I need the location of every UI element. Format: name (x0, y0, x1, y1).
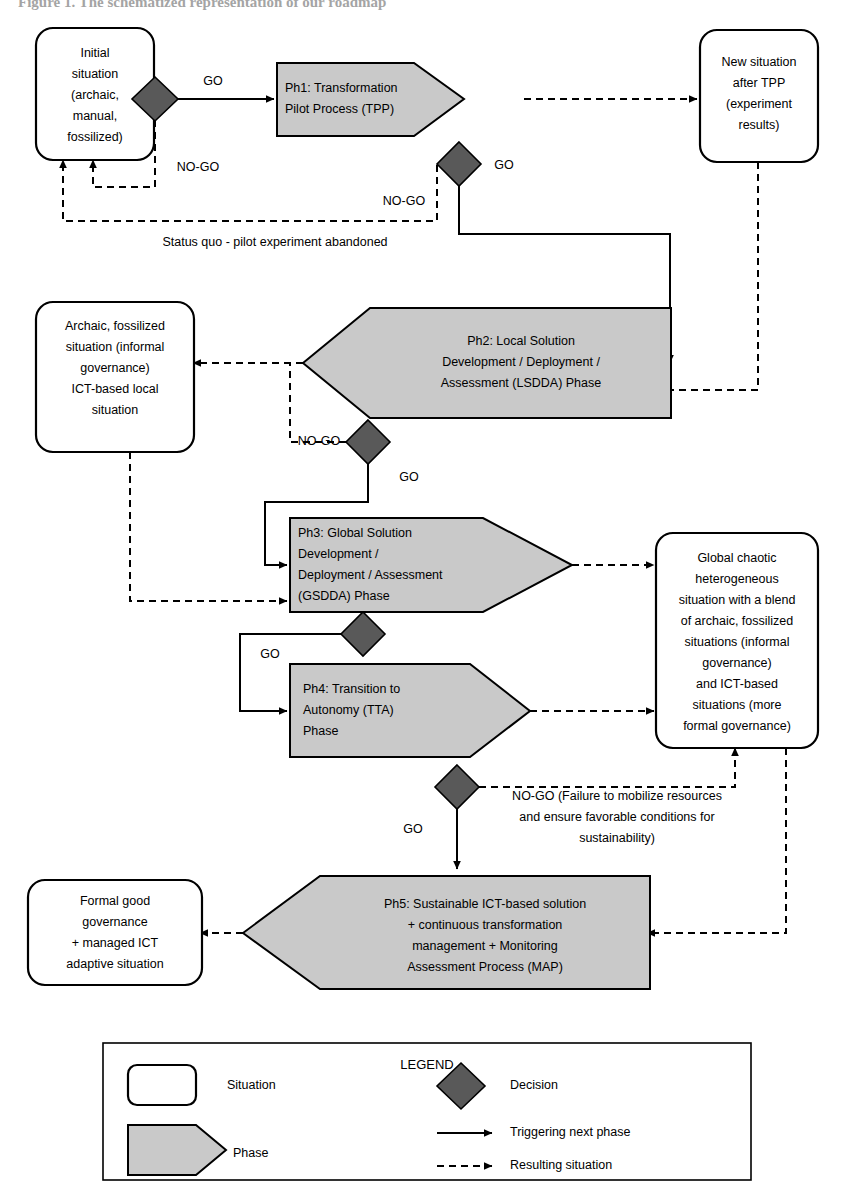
archaic-local-line-1: situation (informal (66, 340, 165, 354)
label-nogo-5-line-0: NO-GO (Failure to mobilize resources (512, 789, 722, 803)
legend-decision-label: Decision (510, 1078, 558, 1092)
ph2-line-2: Assessment (LSDDA) Phase (441, 376, 602, 390)
global-chaotic-line-2: situation with a blend (679, 593, 796, 607)
ph3-line-3: (GSDDA) Phase (298, 589, 390, 603)
node-ph3[interactable]: Ph3: Global Solution Development / Deplo… (290, 518, 572, 612)
new-situation-line-2: (experiment (726, 97, 793, 111)
initial-situation-line-0: Initial (80, 46, 109, 60)
global-chaotic-line-8: formal governance) (683, 719, 791, 733)
formal-line-1: governance (82, 915, 147, 929)
node-formal-good-governance[interactable]: Formal good governance + managed ICT ada… (28, 880, 202, 985)
global-chaotic-line-6: and ICT-based (696, 677, 778, 691)
new-situation-shape (700, 30, 818, 162)
initial-situation-line-1: situation (72, 67, 119, 81)
formal-line-0: Formal good (80, 894, 150, 908)
global-chaotic-line-5: governance) (702, 656, 772, 670)
label-go-1: GO (203, 74, 223, 88)
ph1-line-0: Ph1: Transformation (285, 81, 398, 95)
label-go-4: GO (260, 647, 280, 661)
ph1-shape (277, 63, 464, 136)
edge-nogo5 (479, 748, 735, 787)
legend: LEGEND Situation Phase Decision Triggeri… (103, 1043, 751, 1180)
global-chaotic-line-4: situations (informal (685, 635, 790, 649)
label-go-2: GO (494, 158, 514, 172)
ph5-line-3: Assessment Process (MAP) (407, 960, 563, 974)
edge-global-ph5 (647, 748, 786, 933)
global-chaotic-line-1: heterogeneous (695, 572, 778, 586)
node-archaic-local[interactable]: Archaic, fossilized situation (informal … (36, 302, 194, 452)
initial-situation-line-3: manual, (73, 109, 117, 123)
node-ph1[interactable]: Ph1: Transformation Pilot Process (TPP) (277, 63, 464, 136)
ph4-line-0: Ph4: Transition to (303, 682, 400, 696)
legend-phase-label: Phase (233, 1146, 268, 1160)
label-nogo-1: NO-GO (177, 160, 220, 174)
decision-d3-shape (346, 420, 390, 464)
formal-line-3: adaptive situation (66, 957, 163, 971)
ph2-line-1: Development / Deployment / (442, 355, 600, 369)
ph3-line-1: Development / (298, 547, 379, 561)
label-nogo-2: NO-GO (383, 194, 426, 208)
legend-situation-swatch (128, 1065, 196, 1105)
ph1-line-1: Pilot Process (TPP) (285, 102, 394, 116)
legend-result-label: Resulting situation (510, 1158, 612, 1172)
new-situation-line-0: New situation (721, 55, 796, 69)
node-ph5[interactable]: Ph5: Sustainable ICT-based solution + co… (243, 876, 650, 989)
ph2-line-0: Ph2: Local Solution (467, 334, 575, 348)
global-chaotic-line-7: situations (more (693, 698, 782, 712)
node-decision-d3[interactable] (346, 420, 390, 464)
archaic-local-line-3: ICT-based local (72, 382, 159, 396)
label-status-quo: Status quo - pilot experiment abandoned (162, 235, 387, 249)
node-decision-d4[interactable] (341, 612, 385, 656)
ph3-line-0: Ph3: Global Solution (298, 526, 412, 540)
decision-d5-shape (435, 765, 479, 809)
label-nogo-5-line-2: sustainability) (579, 831, 655, 845)
node-ph4[interactable]: Ph4: Transition to Autonomy (TTA) Phase (290, 664, 530, 757)
label-go-3: GO (399, 470, 419, 484)
label-nogo-3: NO-GO (298, 434, 341, 448)
ph5-line-1: + continuous transformation (408, 918, 563, 932)
archaic-local-line-4: situation (92, 403, 139, 417)
node-new-situation-tpp[interactable]: New situation after TPP (experiment resu… (700, 30, 818, 162)
legend-situation-label: Situation (227, 1078, 276, 1092)
archaic-local-line-2: governance) (80, 361, 150, 375)
new-situation-line-3: results) (739, 118, 780, 132)
ph4-line-1: Autonomy (TTA) (303, 703, 394, 717)
ph4-line-2: Phase (303, 724, 338, 738)
roadmap-flowchart: Initial situation (archaic, manual, foss… (0, 0, 856, 1201)
node-decision-d2[interactable] (437, 142, 481, 186)
node-decision-d5[interactable] (435, 765, 479, 809)
edge-archaic-ph3 (130, 452, 287, 601)
label-nogo-5-line-1: and ensure favorable conditions for (519, 810, 714, 824)
ph5-line-0: Ph5: Sustainable ICT-based solution (384, 897, 586, 911)
edge-newsituation-ph2 (661, 162, 758, 390)
label-go-5: GO (403, 822, 423, 836)
node-global-chaotic[interactable]: Global chaotic heterogeneous situation w… (656, 533, 818, 748)
ph5-line-2: management + Monitoring (412, 939, 558, 953)
initial-situation-line-2: (archaic, (71, 88, 119, 102)
decision-d2-shape (437, 142, 481, 186)
global-chaotic-line-3: of archaic, fossilized (681, 614, 794, 628)
archaic-local-line-0: Archaic, fossilized (65, 319, 165, 333)
initial-situation-line-4: fossilized) (67, 130, 123, 144)
edge-nogo2 (63, 160, 437, 221)
new-situation-line-1: after TPP (733, 76, 786, 90)
legend-title: LEGEND (400, 1057, 453, 1072)
legend-trigger-label: Triggering next phase (510, 1125, 630, 1139)
formal-line-2: + managed ICT (72, 936, 159, 950)
ph3-line-2: Deployment / Assessment (298, 568, 443, 582)
global-chaotic-line-0: Global chaotic (697, 551, 776, 565)
node-ph2[interactable]: Ph2: Local Solution Development / Deploy… (303, 308, 671, 418)
decision-d4-shape (341, 612, 385, 656)
